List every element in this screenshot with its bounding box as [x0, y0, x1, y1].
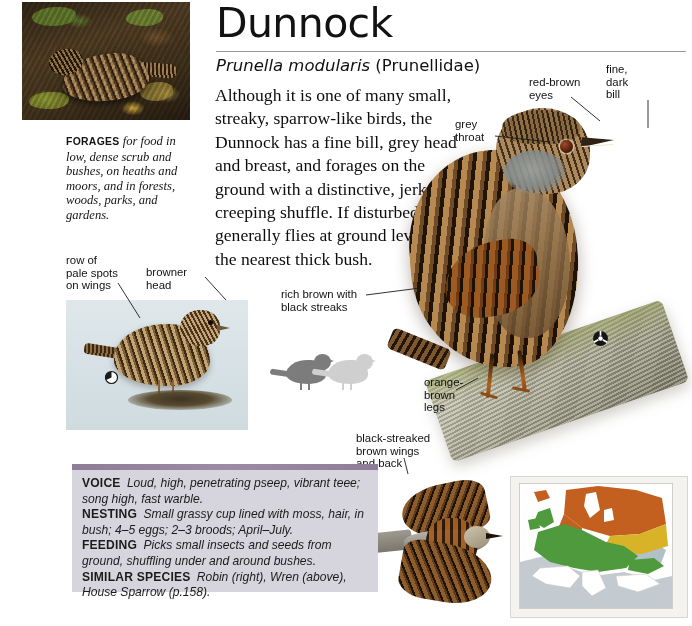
- juvenile-bill: [217, 325, 230, 331]
- leader-browner-head: [205, 277, 226, 300]
- adult-dunnock-illustration: [392, 92, 642, 422]
- adult-eye: [560, 140, 573, 153]
- info-entry: VOICE Loud, high, penetrating pseep, vib…: [82, 476, 370, 507]
- label-red-brown-eyes: red-brown eyes: [529, 76, 580, 101]
- silhouette-bill: [370, 359, 376, 363]
- forages-caption: FORAGES for food in low, dense scrub and…: [66, 134, 198, 223]
- label-grey-throat: grey throat: [455, 118, 484, 143]
- silhouette-leg: [308, 382, 310, 390]
- species-info-box: VOICE Loud, high, penetrating pseep, vib…: [72, 464, 378, 592]
- juvenile-ground: [128, 390, 232, 410]
- label-fine-dark-bill: fine, dark bill: [606, 63, 628, 101]
- scientific-name: Prunella modularis (Prunellidae): [216, 56, 480, 75]
- info-entry-key: SIMILAR SPECIES: [82, 570, 197, 584]
- distribution-map: [510, 476, 688, 618]
- juvenile-eye: [208, 320, 213, 325]
- info-entry: FEEDING Picks small insects and seeds fr…: [82, 538, 370, 569]
- scientific-name-binomial: Prunella modularis: [216, 56, 370, 75]
- info-entry: SIMILAR SPECIES Robin (right), Wren (abo…: [82, 570, 370, 601]
- juvenile-head: [180, 310, 220, 346]
- label-row-of-pale-spots-on-wings: row of pale spots on wings: [66, 254, 118, 292]
- silhouette-leg: [300, 382, 302, 390]
- info-entry: NESTING Small grassy cup lined with moss…: [82, 507, 370, 538]
- juvenile-bird-illustration: [92, 300, 242, 408]
- info-entry-key: FEEDING: [82, 538, 143, 552]
- title-divider: [216, 51, 686, 52]
- distribution-map-canvas: [519, 483, 673, 609]
- europe-map-svg: [520, 484, 672, 608]
- photo-texture: [22, 2, 190, 120]
- info-entry-key: NESTING: [82, 507, 143, 521]
- forages-caption-lead: FORAGES: [66, 136, 119, 147]
- adult-age-icon: [592, 330, 609, 347]
- family-name: (Prunellidae): [375, 56, 480, 75]
- info-box-top-bar: [72, 464, 378, 470]
- label-browner-head: browner head: [146, 266, 187, 291]
- map-resident-range: [528, 518, 540, 530]
- label-rich-brown-with-black-streaks: rich brown with black streaks: [281, 288, 357, 313]
- silhouette-leg: [350, 382, 352, 390]
- adult-foot: [512, 386, 530, 393]
- adult-grey-throat: [504, 150, 566, 194]
- silhouette-comparison: [322, 352, 378, 392]
- flight-bill: [486, 533, 503, 539]
- page-title: Dunnock: [216, 0, 393, 47]
- info-entry-key: VOICE: [82, 476, 127, 490]
- info-box-entries: VOICE Loud, high, penetrating pseep, vib…: [82, 476, 370, 601]
- field-guide-page: FORAGES for food in low, dense scrub and…: [0, 0, 692, 626]
- silhouette-leg: [342, 382, 344, 390]
- juvenile-age-icon: [104, 370, 119, 385]
- label-orange-brown-legs: orange- brown legs: [424, 376, 463, 414]
- adult-crown: [502, 110, 580, 144]
- dunnock-photograph: [22, 2, 190, 120]
- forages-caption-body: for food in low, dense scrub and bushes,…: [66, 134, 177, 222]
